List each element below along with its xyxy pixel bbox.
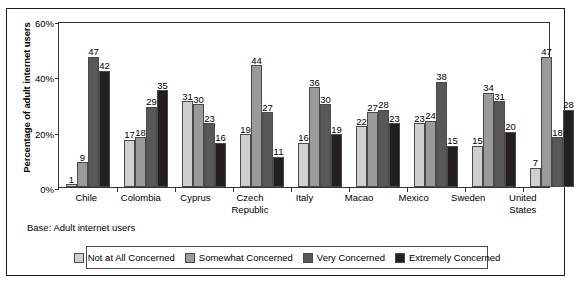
bar[interactable]: 23 <box>389 123 400 187</box>
bar-value-label: 23 <box>389 114 400 124</box>
bar[interactable]: 18 <box>135 137 146 187</box>
bar-value-label: 20 <box>505 122 516 132</box>
bar-group: 17182935 <box>117 23 175 187</box>
bar-value-label: 23 <box>414 114 425 124</box>
x-category-label: Cyprus <box>168 192 223 215</box>
bar-value-label: 44 <box>251 56 262 66</box>
legend-item[interactable]: Extremely Concerned <box>395 252 500 263</box>
bar[interactable]: 19 <box>331 134 342 187</box>
bar[interactable]: 27 <box>367 112 378 187</box>
x-category-label: Italy <box>277 192 332 215</box>
bar[interactable]: 20 <box>505 132 516 187</box>
bar[interactable]: 30 <box>320 104 331 187</box>
bar[interactable]: 27 <box>262 112 273 187</box>
legend-swatch <box>303 253 313 263</box>
bar-group: 22272823 <box>349 23 407 187</box>
bar[interactable]: 16 <box>298 143 309 187</box>
bar[interactable]: 28 <box>563 110 574 187</box>
bar-value-label: 42 <box>99 61 110 71</box>
legend-label: Somewhat Concerned <box>199 252 293 263</box>
x-category-label: CzechRepublic <box>223 192 278 215</box>
bar-group: 15343120 <box>465 23 523 187</box>
bar-value-label: 27 <box>367 103 378 113</box>
bar-value-label: 1 <box>69 175 74 185</box>
bar[interactable]: 7 <box>530 168 541 187</box>
bar[interactable]: 24 <box>425 121 436 187</box>
legend-swatch <box>74 253 84 263</box>
y-tick-label: 60% <box>35 18 54 29</box>
legend-label: Not at All Concerned <box>88 252 175 263</box>
x-category-label: Colombia <box>114 192 169 215</box>
bar[interactable]: 31 <box>182 101 193 187</box>
bar[interactable]: 23 <box>414 123 425 187</box>
bar[interactable]: 44 <box>251 65 262 187</box>
bar[interactable]: 18 <box>552 137 563 187</box>
bar[interactable]: 9 <box>77 162 88 187</box>
bar[interactable]: 36 <box>309 87 320 187</box>
bar[interactable]: 15 <box>472 146 483 188</box>
bar-value-label: 19 <box>240 125 251 135</box>
bar[interactable]: 34 <box>483 93 494 187</box>
bar[interactable]: 1 <box>66 184 77 187</box>
bar-value-label: 16 <box>298 133 309 143</box>
y-tick-label: 20% <box>35 128 54 139</box>
bar-value-label: 28 <box>563 100 574 110</box>
bar-value-label: 16 <box>215 133 226 143</box>
x-axis-categories: ChileColombiaCyprusCzechRepublicItalyMac… <box>59 192 550 215</box>
bar-value-label: 22 <box>356 117 367 127</box>
bar-value-label: 27 <box>262 103 273 113</box>
legend-swatch <box>395 253 405 263</box>
bar[interactable]: 47 <box>541 57 552 187</box>
bar-group: 7471828 <box>523 23 578 187</box>
bar-value-label: 19 <box>331 125 342 135</box>
x-category-label: Mexico <box>386 192 441 215</box>
y-tick-mark <box>55 189 59 190</box>
bar-value-label: 38 <box>436 72 447 82</box>
bar-value-label: 31 <box>182 92 193 102</box>
x-category-label: Chile <box>59 192 114 215</box>
legend-item[interactable]: Not at All Concerned <box>74 252 175 263</box>
bar[interactable]: 38 <box>436 82 447 187</box>
x-category-label: Macao <box>332 192 387 215</box>
bar[interactable]: 42 <box>99 71 110 187</box>
chart-legend: Not at All ConcernedSomewhat ConcernedVe… <box>86 246 488 269</box>
bar-value-label: 18 <box>552 128 563 138</box>
bar-group: 16363019 <box>291 23 349 187</box>
bar[interactable]: 15 <box>447 146 458 188</box>
bar-value-label: 28 <box>378 100 389 110</box>
bar[interactable]: 35 <box>157 90 168 187</box>
bar[interactable]: 28 <box>378 110 389 187</box>
y-tick-label: 0% <box>40 184 54 195</box>
bar[interactable]: 22 <box>356 126 367 187</box>
bar[interactable]: 11 <box>273 157 284 187</box>
bar-groups: 1947421718293531302316194427111636301922… <box>59 23 549 187</box>
bar[interactable]: 17 <box>124 140 135 187</box>
legend-swatch <box>185 253 195 263</box>
bar[interactable]: 29 <box>146 107 157 187</box>
bar-value-label: 18 <box>135 128 146 138</box>
bar-value-label: 11 <box>274 147 284 157</box>
bar-value-label: 7 <box>533 158 538 168</box>
bar[interactable]: 19 <box>240 134 251 187</box>
legend-item[interactable]: Somewhat Concerned <box>185 252 293 263</box>
base-note: Base: Adult internet users <box>27 222 135 233</box>
bar-value-label: 23 <box>204 114 215 124</box>
bar-value-label: 9 <box>80 153 85 163</box>
bar-group: 194742 <box>59 23 117 187</box>
bar-value-label: 34 <box>483 83 494 93</box>
bar-value-label: 47 <box>541 47 552 57</box>
legend-label: Extremely Concerned <box>409 252 500 263</box>
bar-value-label: 31 <box>494 92 505 102</box>
bar[interactable]: 16 <box>215 143 226 187</box>
legend-item[interactable]: Very Concerned <box>303 252 385 263</box>
bar[interactable]: 23 <box>204 123 215 187</box>
bar-value-label: 30 <box>320 95 331 105</box>
y-axis-title: Percentage of adult internet users <box>21 8 32 188</box>
bar-value-label: 24 <box>425 111 436 121</box>
bar[interactable]: 30 <box>193 104 204 187</box>
bar-value-label: 15 <box>447 136 458 146</box>
bar[interactable]: 31 <box>494 101 505 187</box>
bar-group: 19442711 <box>233 23 291 187</box>
bar[interactable]: 47 <box>88 57 99 187</box>
